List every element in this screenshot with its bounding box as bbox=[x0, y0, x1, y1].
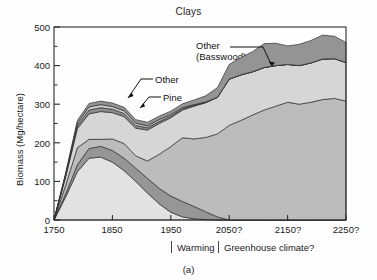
area-bands-group bbox=[54, 35, 346, 220]
arrowhead-pine bbox=[140, 103, 145, 108]
figure-panel: Clays Biomass (Mg/hectare) 500 400 300 2… bbox=[0, 0, 377, 280]
stacked-area-plot bbox=[0, 0, 377, 280]
